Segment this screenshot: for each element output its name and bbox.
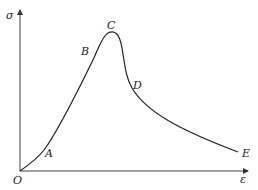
point-label-c: C (107, 19, 116, 32)
x-axis-label: ε (240, 173, 246, 186)
y-axis-label: σ (6, 9, 14, 22)
point-label-a: A (44, 147, 53, 160)
point-label-e: E (241, 147, 250, 160)
point-label-d: D (132, 79, 142, 92)
stress-strain-diagram: σ O ε A B C D E (0, 0, 258, 190)
origin-label: O (13, 174, 22, 187)
point-label-b: B (80, 45, 89, 58)
